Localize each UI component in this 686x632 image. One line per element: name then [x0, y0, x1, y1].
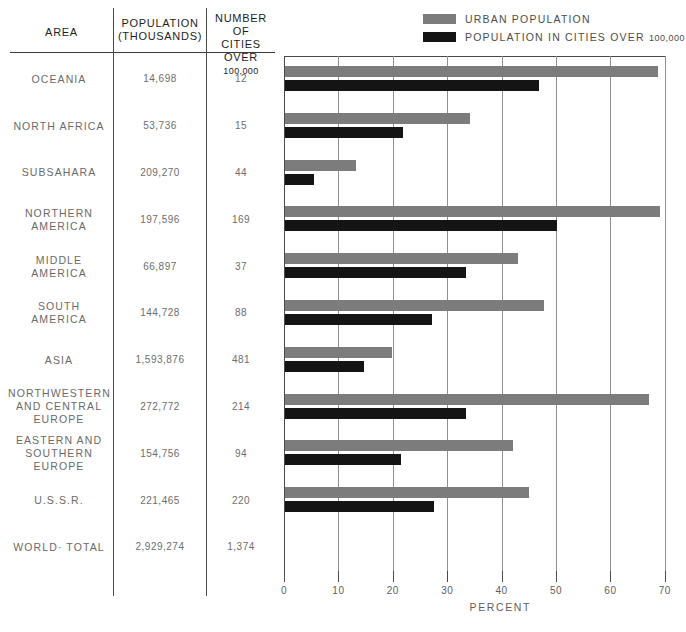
cell-cities: 15	[209, 120, 273, 131]
legend-item-cities: POPULATION IN CITIES OVER 100,000	[423, 30, 681, 45]
chart-legend: URBAN POPULATION POPULATION IN CITIES OV…	[423, 12, 681, 48]
cell-population: 14,698	[116, 73, 204, 84]
cell-population: 209,270	[116, 167, 204, 178]
bar-cities-population	[285, 408, 466, 419]
cell-cities: 1,374	[209, 541, 273, 552]
table-row: NORTHWESTERNAND CENTRALEUROPE272,772214	[0, 384, 275, 431]
legend-swatch-cities-icon	[423, 32, 456, 42]
gridline	[556, 56, 557, 571]
table-row: U.S.S.R.221,465220	[0, 477, 275, 524]
cell-area: WORLD· TOTAL	[8, 541, 110, 554]
x-axis-tick-label: 40	[487, 585, 517, 596]
column-header-area: AREA	[14, 26, 109, 39]
cell-cities: 220	[209, 495, 273, 506]
bar-chart: URBAN POPULATION POPULATION IN CITIES OV…	[275, 0, 686, 632]
x-axis-tick-label: 10	[323, 585, 353, 596]
bar-cities-population	[285, 361, 364, 372]
chart-page: AREA POPULATION (THOUSANDS) NUMBER OF CI…	[0, 0, 686, 632]
x-axis-tick-label: 20	[378, 585, 408, 596]
bar-urban-population	[285, 347, 392, 358]
cell-population: 66,897	[116, 261, 204, 272]
bar-urban-population	[285, 206, 660, 217]
legend-label-urban: URBAN POPULATION	[465, 13, 591, 25]
legend-label-cities: POPULATION IN CITIES OVER 100,000	[465, 31, 685, 43]
cell-area: U.S.S.R.	[8, 494, 110, 507]
bar-urban-population	[285, 160, 356, 171]
x-axis-tick-label: 50	[541, 585, 571, 596]
x-axis-tick	[338, 571, 339, 582]
cell-area: NORTH AFRICA	[8, 120, 110, 133]
bar-urban-population	[285, 394, 649, 405]
x-axis-tick-label: 0	[269, 585, 299, 596]
cell-area: OCEANIA	[8, 73, 110, 86]
x-axis-tick	[284, 571, 285, 582]
cell-cities: 88	[209, 307, 273, 318]
cell-cities: 12	[209, 73, 273, 84]
cell-area: SOUTHAMERICA	[8, 300, 110, 326]
cell-area: MIDDLEAMERICA	[8, 254, 110, 280]
x-axis-tick-label: 70	[650, 585, 680, 596]
bar-cities-population	[285, 80, 539, 91]
x-axis-tick	[447, 571, 448, 582]
legend-swatch-urban-icon	[423, 14, 456, 24]
table-row: OCEANIA14,69812	[0, 56, 275, 103]
table-row: NORTHERNAMERICA197,596169	[0, 196, 275, 243]
bar-cities-population	[285, 501, 434, 512]
x-axis-tick	[556, 571, 557, 582]
x-axis-tick-label: 30	[432, 585, 462, 596]
table-row: NORTH AFRICA53,73615	[0, 103, 275, 150]
cell-cities: 169	[209, 214, 273, 225]
plot-area: 010203040506070	[284, 56, 676, 571]
cell-population: 2,929,274	[116, 541, 204, 552]
bar-urban-population	[285, 440, 513, 451]
x-axis-tick	[502, 571, 503, 582]
cell-area: SUBSAHARA	[8, 166, 110, 179]
bar-cities-population	[285, 314, 432, 325]
cell-area: ASIA	[8, 354, 110, 367]
gridline	[610, 56, 611, 571]
column-header-population: POPULATION (THOUSANDS)	[116, 17, 204, 43]
bar-urban-population	[285, 253, 518, 264]
bar-urban-population	[285, 487, 529, 498]
table-row: EASTERN ANDSOUTHERNEUROPE154,75694	[0, 430, 275, 477]
legend-item-urban: URBAN POPULATION	[423, 12, 681, 27]
x-axis-title: PERCENT	[470, 601, 531, 613]
table-row: SUBSAHARA209,27044	[0, 150, 275, 197]
bar-urban-population	[285, 300, 544, 311]
cell-population: 221,465	[116, 495, 204, 506]
cell-cities: 44	[209, 167, 273, 178]
cell-cities: 481	[209, 354, 273, 365]
column-header-cities-line1: NUMBER OF	[215, 12, 267, 37]
cell-area: EASTERN ANDSOUTHERNEUROPE	[8, 434, 110, 473]
cell-population: 144,728	[116, 307, 204, 318]
x-axis-tick-label: 60	[595, 585, 625, 596]
gridline	[665, 56, 666, 571]
cell-population: 154,756	[116, 448, 204, 459]
bar-cities-population	[285, 220, 557, 231]
cell-population: 1,593,876	[116, 354, 204, 365]
bar-cities-population	[285, 267, 466, 278]
x-axis-tick	[665, 571, 666, 582]
cell-population: 53,736	[116, 120, 204, 131]
bar-cities-population	[285, 127, 403, 138]
column-header-population-line1: POPULATION	[121, 17, 198, 29]
legend-label-cities-threshold: 100,000	[649, 33, 685, 43]
bar-cities-population	[285, 454, 401, 465]
table-row: ASIA1,593,876481	[0, 337, 275, 384]
bar-cities-population	[285, 174, 314, 185]
plot-top-border	[284, 56, 666, 57]
legend-label-cities-main: POPULATION IN CITIES OVER	[465, 31, 645, 43]
bar-urban-population	[285, 113, 470, 124]
x-axis-tick	[393, 571, 394, 582]
data-table: AREA POPULATION (THOUSANDS) NUMBER OF CI…	[0, 0, 275, 632]
cell-area: NORTHWESTERNAND CENTRALEUROPE	[8, 387, 110, 426]
table-row: SOUTHAMERICA144,72888	[0, 290, 275, 337]
cell-cities: 94	[209, 448, 273, 459]
cell-cities: 214	[209, 401, 273, 412]
bar-urban-population	[285, 66, 658, 77]
table-row: MIDDLEAMERICA66,89737	[0, 243, 275, 290]
cell-cities: 37	[209, 261, 273, 272]
column-header-population-line2: (THOUSANDS)	[118, 30, 202, 42]
table-row: WORLD· TOTAL2,929,2741,374	[0, 524, 275, 571]
cell-population: 197,596	[116, 214, 204, 225]
